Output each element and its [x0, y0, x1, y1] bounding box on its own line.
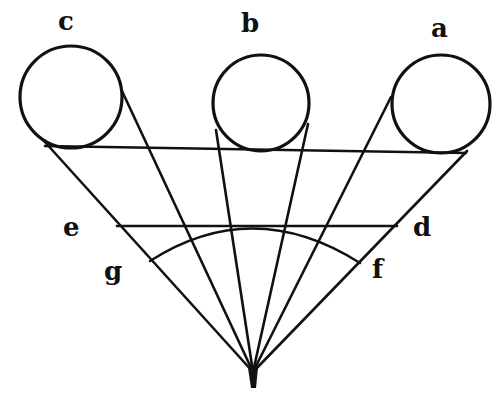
perspective-diagram: c b a e d g f	[0, 0, 500, 414]
label-b: b	[241, 8, 259, 38]
ray-c-outer	[44, 141, 253, 372]
ray-b-right	[253, 124, 308, 372]
circle-b	[213, 55, 309, 151]
circle-a	[392, 55, 490, 153]
ray-a-inner	[253, 97, 391, 372]
ray-c-inner	[122, 91, 253, 372]
arc-g-f	[150, 228, 360, 263]
apex-stem	[248, 368, 258, 388]
circle-c	[20, 46, 122, 148]
label-a: a	[431, 13, 448, 43]
label-g: g	[104, 256, 122, 286]
label-c: c	[58, 6, 74, 36]
label-d: d	[413, 212, 431, 242]
label-e: e	[63, 212, 80, 242]
label-f: f	[372, 254, 385, 284]
ray-a-outer	[253, 151, 467, 372]
